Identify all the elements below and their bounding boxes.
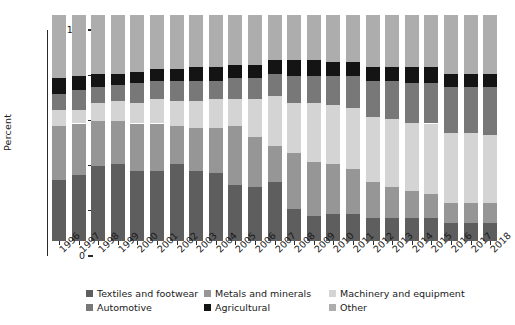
- bar-segment[interactable]: [189, 81, 203, 101]
- bar-segment[interactable]: [209, 67, 223, 81]
- bar-segment[interactable]: [248, 99, 262, 137]
- bar-segment[interactable]: [130, 103, 144, 123]
- bar-segment[interactable]: [346, 169, 360, 214]
- bar-2004[interactable]: [209, 15, 223, 241]
- bar-segment[interactable]: [189, 15, 203, 67]
- bar-segment[interactable]: [405, 191, 419, 218]
- bar-segment[interactable]: [91, 121, 105, 166]
- legend-item[interactable]: Machinery and equipment: [329, 287, 465, 300]
- bar-segment[interactable]: [209, 99, 223, 128]
- bar-segment[interactable]: [72, 110, 86, 124]
- bar-segment[interactable]: [287, 15, 301, 60]
- bar-segment[interactable]: [170, 15, 184, 69]
- bar-segment[interactable]: [366, 81, 380, 117]
- bar-segment[interactable]: [72, 76, 86, 90]
- bar-segment[interactable]: [150, 15, 164, 69]
- bar-segment[interactable]: [307, 60, 321, 76]
- bar-2003[interactable]: [189, 15, 203, 241]
- bar-segment[interactable]: [111, 121, 125, 164]
- bar-2008[interactable]: [287, 15, 301, 241]
- bar-segment[interactable]: [444, 74, 458, 88]
- bar-segment[interactable]: [326, 105, 340, 164]
- bar-segment[interactable]: [385, 187, 399, 219]
- bar-segment[interactable]: [150, 124, 164, 171]
- bar-segment[interactable]: [52, 180, 66, 241]
- bar-segment[interactable]: [326, 15, 340, 62]
- bar-segment[interactable]: [307, 76, 321, 103]
- bar-segment[interactable]: [346, 15, 360, 62]
- bar-2015[interactable]: [424, 15, 438, 241]
- bar-segment[interactable]: [346, 108, 360, 169]
- bar-2011[interactable]: [346, 15, 360, 241]
- bar-segment[interactable]: [268, 15, 282, 60]
- bar-1997[interactable]: [72, 15, 86, 241]
- bar-segment[interactable]: [287, 76, 301, 103]
- bar-segment[interactable]: [444, 203, 458, 223]
- bar-segment[interactable]: [483, 74, 497, 88]
- bar-segment[interactable]: [464, 87, 478, 132]
- bar-segment[interactable]: [72, 124, 86, 176]
- bar-segment[interactable]: [385, 119, 399, 187]
- bar-segment[interactable]: [52, 78, 66, 94]
- bar-segment[interactable]: [385, 81, 399, 119]
- bar-segment[interactable]: [287, 103, 301, 153]
- bar-segment[interactable]: [170, 81, 184, 101]
- bar-segment[interactable]: [326, 62, 340, 76]
- bar-segment[interactable]: [130, 83, 144, 103]
- legend-item[interactable]: Agricultural: [204, 301, 270, 314]
- bar-segment[interactable]: [464, 203, 478, 223]
- bar-segment[interactable]: [424, 83, 438, 124]
- bar-segment[interactable]: [444, 87, 458, 132]
- bar-segment[interactable]: [444, 15, 458, 74]
- bar-segment[interactable]: [483, 87, 497, 134]
- bar-segment[interactable]: [483, 135, 497, 203]
- bar-segment[interactable]: [130, 15, 144, 72]
- bar-2012[interactable]: [366, 15, 380, 241]
- bar-segment[interactable]: [189, 101, 203, 128]
- bar-segment[interactable]: [366, 67, 380, 81]
- bar-segment[interactable]: [464, 74, 478, 88]
- bar-segment[interactable]: [346, 76, 360, 108]
- bar-segment[interactable]: [385, 67, 399, 81]
- bar-segment[interactable]: [52, 110, 66, 126]
- bar-segment[interactable]: [52, 94, 66, 110]
- bar-segment[interactable]: [483, 203, 497, 223]
- bar-segment[interactable]: [228, 78, 242, 98]
- bar-segment[interactable]: [248, 78, 262, 98]
- bar-segment[interactable]: [248, 137, 262, 187]
- bar-segment[interactable]: [287, 153, 301, 210]
- bar-segment[interactable]: [91, 103, 105, 121]
- bar-segment[interactable]: [424, 194, 438, 219]
- bar-segment[interactable]: [268, 96, 282, 146]
- bar-segment[interactable]: [424, 124, 438, 194]
- bar-segment[interactable]: [170, 101, 184, 126]
- bar-segment[interactable]: [111, 85, 125, 101]
- bar-segment[interactable]: [405, 67, 419, 83]
- bar-segment[interactable]: [228, 99, 242, 126]
- bar-2006[interactable]: [248, 15, 262, 241]
- bar-segment[interactable]: [91, 15, 105, 74]
- bar-segment[interactable]: [72, 90, 86, 110]
- bar-segment[interactable]: [307, 15, 321, 60]
- bar-segment[interactable]: [91, 87, 105, 103]
- bar-segment[interactable]: [424, 67, 438, 83]
- bar-1998[interactable]: [91, 15, 105, 241]
- legend-item[interactable]: Automotive: [86, 301, 152, 314]
- bar-1999[interactable]: [111, 15, 125, 241]
- legend-item[interactable]: Metals and minerals: [204, 287, 311, 300]
- bar-segment[interactable]: [464, 15, 478, 74]
- bar-segment[interactable]: [248, 15, 262, 65]
- bar-segment[interactable]: [150, 99, 164, 124]
- bar-segment[interactable]: [209, 81, 223, 99]
- bar-2017[interactable]: [464, 15, 478, 241]
- bar-segment[interactable]: [268, 146, 282, 182]
- bar-segment[interactable]: [189, 128, 203, 171]
- bar-segment[interactable]: [385, 15, 399, 67]
- bar-segment[interactable]: [307, 162, 321, 216]
- bar-2002[interactable]: [170, 15, 184, 241]
- bar-segment[interactable]: [52, 15, 66, 78]
- bar-segment[interactable]: [326, 164, 340, 214]
- bar-segment[interactable]: [228, 15, 242, 65]
- bar-2005[interactable]: [228, 15, 242, 241]
- bar-segment[interactable]: [209, 128, 223, 173]
